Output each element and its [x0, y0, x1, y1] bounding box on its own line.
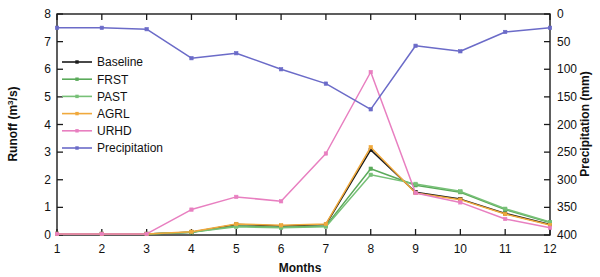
x-tick-label: 8 [367, 242, 374, 256]
y-tick-label: 6 [44, 62, 51, 76]
legend-item-past: PAST [62, 90, 128, 104]
data-point [369, 108, 372, 111]
data-point [235, 52, 238, 55]
data-point [459, 190, 462, 193]
data-point [235, 222, 238, 225]
y2-tick-label: 200 [557, 118, 577, 132]
x-tick-label: 7 [323, 242, 330, 256]
series-line [57, 147, 550, 234]
y-axis-left-title: Runoff (m3/s) [6, 86, 21, 161]
data-point [190, 208, 193, 211]
legend-swatch-marker [75, 60, 78, 63]
x-tick-label: 9 [412, 242, 419, 256]
y-tick-label: 5 [44, 90, 51, 104]
data-point [100, 26, 103, 29]
legend-label: Baseline [97, 55, 143, 69]
x-tick-label: 4 [188, 242, 195, 256]
legend-swatch-marker [75, 78, 78, 81]
data-point [503, 212, 506, 215]
data-point [279, 224, 282, 227]
y2-tick-label: 350 [557, 200, 577, 214]
y-tick-label: 0 [44, 228, 51, 242]
data-point [503, 217, 506, 220]
data-point [459, 201, 462, 204]
y-axis-right-title: Precipitation (mm) [578, 71, 592, 176]
data-point [279, 200, 282, 203]
y-tick-label: 8 [44, 7, 51, 21]
x-axis-ticks: 123456789101112 [54, 229, 557, 256]
legend-label: FRST [97, 73, 129, 87]
data-point [459, 50, 462, 53]
x-tick-label: 12 [543, 242, 557, 256]
legend-item-baseline: Baseline [62, 55, 143, 69]
y-tick-label: 3 [44, 145, 51, 159]
legend-label: PAST [97, 90, 128, 104]
y-axis-left-ticks: 012345678 [44, 7, 63, 242]
x-tick-label: 10 [454, 242, 468, 256]
data-point [145, 27, 148, 30]
y2-tick-label: 400 [557, 228, 577, 242]
y2-tick-label: 300 [557, 173, 577, 187]
chart-figure: 012345678 050100150200250300350400 12345… [0, 0, 600, 277]
data-point [548, 226, 551, 229]
data-point [235, 195, 238, 198]
data-point [324, 82, 327, 85]
legend-swatch-marker [75, 146, 78, 149]
legend-swatch-marker [75, 129, 78, 132]
data-point [190, 57, 193, 60]
chart-legend: BaselineFRSTPASTAGRLURHDPrecipitation [62, 55, 163, 155]
legend-label: Precipitation [97, 141, 163, 155]
data-point [369, 167, 372, 170]
y2-tick-label: 250 [557, 145, 577, 159]
y2-tick-label: 50 [557, 35, 571, 49]
data-point [279, 68, 282, 71]
legend-swatch-marker [75, 112, 78, 115]
x-axis-title: Months [279, 261, 322, 275]
x-tick-label: 1 [54, 242, 61, 256]
data-point [145, 232, 148, 235]
data-point [414, 44, 417, 47]
legend-item-agrl: AGRL [62, 107, 130, 121]
data-point [190, 230, 193, 233]
data-point [324, 222, 327, 225]
series-line [57, 150, 550, 234]
data-point [100, 232, 103, 235]
data-point [548, 26, 551, 29]
legend-item-urhd: URHD [62, 124, 132, 138]
data-point [324, 152, 327, 155]
series-agrl [55, 145, 551, 235]
y-tick-label: 4 [44, 118, 51, 132]
legend-item-frst: FRST [62, 73, 129, 87]
data-point [369, 145, 372, 148]
x-tick-label: 6 [278, 242, 285, 256]
series-baseline [55, 148, 551, 235]
runoff-precipitation-line-chart: 012345678 050100150200250300350400 12345… [0, 0, 600, 277]
y-tick-label: 1 [44, 200, 51, 214]
data-point [503, 30, 506, 33]
y2-tick-label: 100 [557, 62, 577, 76]
data-point [414, 191, 417, 194]
data-point [503, 207, 506, 210]
legend-label: AGRL [97, 107, 130, 121]
y2-tick-label: 0 [557, 7, 564, 21]
legend-item-precipitation: Precipitation [62, 141, 163, 155]
y2-tick-label: 150 [557, 90, 577, 104]
data-point [55, 26, 58, 29]
data-point [369, 70, 372, 73]
x-axis-top-ticks [57, 14, 550, 20]
x-tick-label: 2 [98, 242, 105, 256]
data-point [414, 182, 417, 185]
x-tick-label: 5 [233, 242, 240, 256]
legend-swatch-marker [75, 95, 78, 98]
legend-label: URHD [97, 124, 132, 138]
y-tick-label: 2 [44, 173, 51, 187]
y-tick-label: 7 [44, 35, 51, 49]
x-tick-label: 3 [143, 242, 150, 256]
data-point [369, 173, 372, 176]
data-point [55, 232, 58, 235]
y-axis-right-ticks: 050100150200250300350400 [544, 7, 577, 242]
x-tick-label: 11 [499, 242, 512, 256]
